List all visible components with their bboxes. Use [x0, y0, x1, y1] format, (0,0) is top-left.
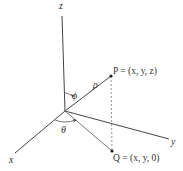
dashed-drop-line: [111, 76, 112, 151]
x-axis-label: x: [8, 154, 14, 165]
z-axis: [62, 16, 65, 111]
y-axis-label: y: [170, 136, 176, 147]
point-p-label: P = (x, y, z): [113, 66, 157, 77]
phi-label: ϕ: [72, 90, 77, 101]
theta-label: θ: [61, 124, 66, 135]
y-axis: [65, 111, 169, 139]
spherical-coordinates-diagram: z x y P = (x, y, z) Q = (x, y, 0) ρ ϕ θ: [0, 0, 183, 171]
z-axis-label: z: [58, 0, 63, 11]
rho-label: ρ: [92, 79, 98, 90]
point-q-label: Q = (x, y, 0): [113, 153, 159, 164]
x-axis: [15, 111, 65, 153]
theta-arc: [55, 120, 76, 122]
